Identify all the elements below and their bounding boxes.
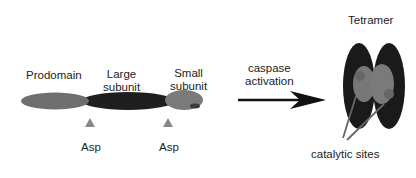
large-subunit-label-line2: subunit [103,81,140,94]
activation-label: caspase activation [245,62,294,88]
activation-label-line2: activation [245,75,294,88]
large-subunit-label: Large subunit [103,68,140,94]
small-subunit-label-line2: subunit [170,80,207,93]
asp-label-1: Asp [81,141,101,154]
catalytic-sites-label: catalytic sites [311,148,379,161]
prodomain-label: Prodomain [26,69,82,82]
small-subunit-label-line1: Small [170,67,207,80]
asp-marker-2 [163,118,173,127]
tetramer-knob-left [355,71,365,81]
activation-label-line1: caspase [245,62,294,75]
asp-label-2: Asp [159,141,179,154]
tetramer-title: Tetramer [348,14,393,27]
small-subunit-label: Small subunit [170,67,207,93]
asp-marker-1 [85,118,95,127]
small-subunit-detail [190,104,200,109]
prodomain-shape [21,93,89,110]
large-subunit-label-line1: Large [103,68,140,81]
tetramer-knob-right [384,89,394,99]
large-subunit-shape [82,92,174,110]
